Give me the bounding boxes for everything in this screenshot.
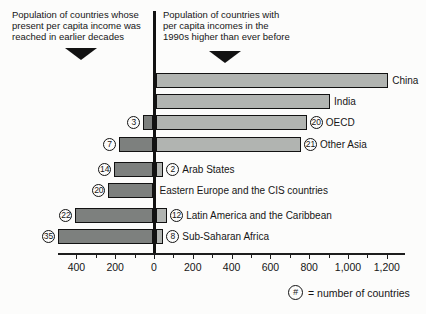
axis-tick [270,255,271,260]
axis-tick [309,255,310,260]
axis-tick-label: 1,200 [374,261,400,273]
axis-tick-label: 400 [223,261,241,273]
legend: # = number of countries [288,285,410,300]
axis-tick-label: 0 [151,261,157,273]
axis-tick [76,255,77,260]
count-badge: 12 [170,209,183,222]
left-axis-title-line: Population of countries whose [12,9,141,20]
left-bar [108,183,153,198]
axis-tick [348,255,349,260]
count-badge: 7 [103,138,116,151]
axis-tick [96,255,97,258]
left-bar [58,229,153,244]
axis-tick [212,255,213,258]
chart-area: Population of countries whose present pe… [0,0,426,314]
axis-tick-label: 800 [300,261,318,273]
axis-tick [232,255,233,260]
right-axis-title-line: 1990s higher than ever before [163,31,290,42]
axis-tick [173,255,174,258]
triangle-down-icon [209,51,241,63]
category-label: OECD [326,117,355,128]
category-label: Other Asia [320,139,367,150]
count-badge: 20 [92,184,105,197]
axis-tick [154,255,155,260]
right-axis-title-line: per capita incomes in the [163,20,290,31]
axis-tick-label: 1,000 [335,261,361,273]
right-bar [156,137,302,152]
left-axis-title-line: present per capita income was [12,20,141,31]
left-axis-title: Population of countries whose present pe… [12,9,141,42]
axis-tick-label: 200 [106,261,124,273]
legend-text: = number of countries [308,287,410,299]
count-badge: 20 [310,116,323,129]
right-bar [156,115,307,130]
right-axis-title: Population of countries with per capita … [163,9,290,42]
right-bar [156,94,331,109]
left-bar [114,162,153,177]
right-axis-title-line: Population of countries with [163,9,290,20]
right-bar [156,229,164,244]
category-label: India [334,96,356,107]
category-label: Sub-Saharan Africa [182,231,269,242]
left-bar [119,137,153,152]
axis-tick [387,255,388,260]
count-symbol-icon: # [288,285,303,300]
triangle-down-icon [65,48,97,60]
category-label: Latin America and the Caribbean [186,210,332,221]
axis-tick [329,255,330,258]
category-label: Arab States [182,164,234,175]
axis-tick [367,255,368,258]
count-badge: 8 [166,230,179,243]
axis-tick-label: 600 [262,261,280,273]
right-bar [156,208,168,223]
axis-tick [193,255,194,260]
category-label: Eastern Europe and the CIS countries [160,185,328,196]
count-badge: 22 [59,209,72,222]
right-bar [156,73,389,88]
right-bar [156,162,164,177]
axis-tick [290,255,291,258]
count-badge: 3 [127,116,140,129]
count-badge: 35 [42,230,55,243]
count-badge: 14 [98,163,111,176]
left-bar [143,115,153,130]
left-bar [75,208,153,223]
axis-tick [251,255,252,258]
left-axis-title-line: reached in earlier decades [12,31,141,42]
category-label: China [392,75,418,86]
axis-tick [135,255,136,258]
count-badge: 21 [304,138,317,151]
axis-tick-label: 200 [184,261,202,273]
axis-tick-label: 400 [68,261,86,273]
axis-tick [115,255,116,260]
count-badge: 2 [166,163,179,176]
